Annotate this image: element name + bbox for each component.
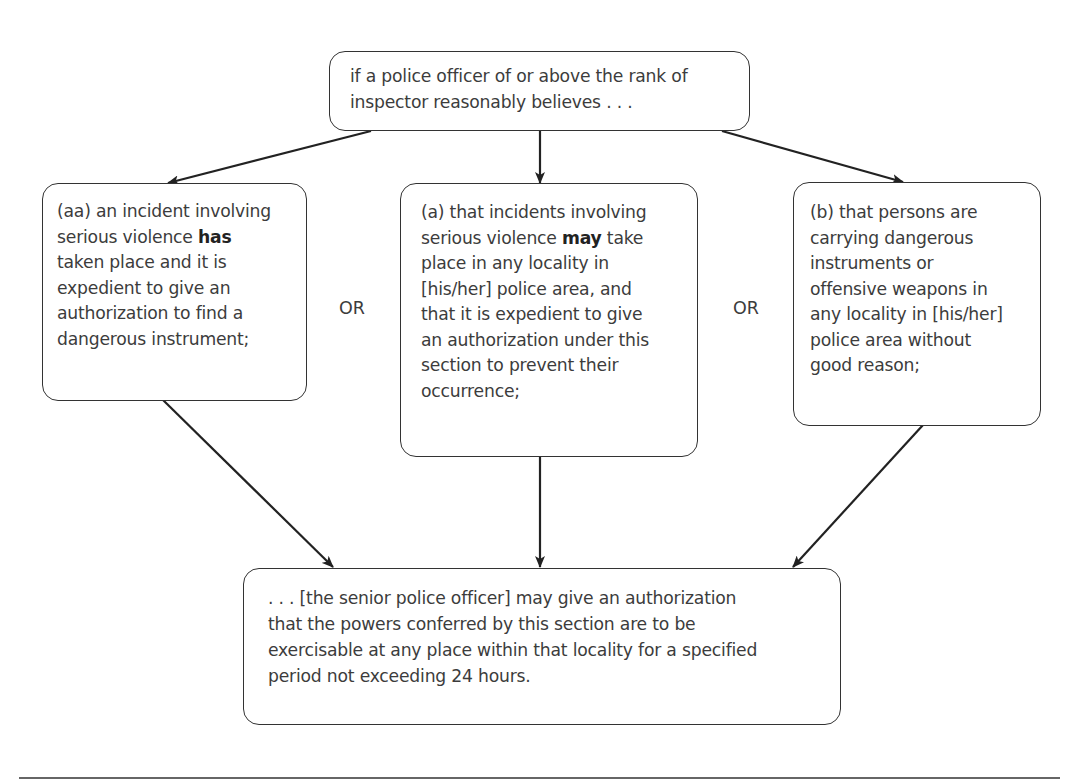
- left-option-text: (aa) an incident involving serious viole…: [57, 199, 271, 352]
- emphasis-may: may: [562, 228, 602, 248]
- arrow-left-to-bottom: [163, 400, 333, 567]
- arrow-right-to-bottom: [793, 425, 923, 567]
- or-label-left: OR: [339, 298, 365, 318]
- or-label-right: OR: [733, 298, 759, 318]
- right-line-2: carrying dangerous: [810, 226, 1003, 252]
- left-line-1: (aa) an incident involving: [57, 199, 271, 225]
- left-line-2: serious violence has: [57, 225, 271, 251]
- left-line-4: expedient to give an: [57, 276, 271, 302]
- middle-line-2-post: take: [602, 228, 644, 248]
- bottom-divider-rule: [19, 777, 1060, 779]
- right-line-4: offensive weapons in: [810, 277, 1003, 303]
- arrow-top-to-right: [722, 131, 903, 182]
- middle-line-2-pre: serious violence: [421, 228, 562, 248]
- middle-line-3: place in any locality in: [421, 251, 649, 277]
- right-line-5: any locality in [his/her]: [810, 302, 1003, 328]
- top-line-1: if a police officer of or above the rank…: [350, 64, 687, 90]
- bottom-result-text: . . . [the senior police officer] may gi…: [268, 585, 757, 689]
- right-line-1: (b) that persons are: [810, 200, 1003, 226]
- left-line-5: authorization to find a: [57, 301, 271, 327]
- left-line-3: taken place and it is: [57, 250, 271, 276]
- top-condition-text: if a police officer of or above the rank…: [350, 64, 687, 115]
- arrow-top-to-left: [168, 131, 371, 183]
- middle-line-8: occurrence;: [421, 379, 649, 405]
- emphasis-has: has: [198, 227, 231, 247]
- left-line-6: dangerous instrument;: [57, 327, 271, 353]
- right-line-7: good reason;: [810, 353, 1003, 379]
- right-line-6: police area without: [810, 328, 1003, 354]
- middle-option-text: (a) that incidents involving serious vio…: [421, 200, 649, 404]
- left-line-2-text: serious violence: [57, 227, 198, 247]
- middle-line-7: section to prevent their: [421, 353, 649, 379]
- top-line-2: inspector reasonably believes . . .: [350, 90, 687, 116]
- right-line-3: instruments or: [810, 251, 1003, 277]
- bottom-line-4: period not exceeding 24 hours.: [268, 663, 757, 689]
- bottom-line-2: that the powers conferred by this sectio…: [268, 611, 757, 637]
- middle-line-4: [his/her] police area, and: [421, 277, 649, 303]
- middle-line-5: that it is expedient to give: [421, 302, 649, 328]
- middle-line-2: serious violence may take: [421, 226, 649, 252]
- bottom-line-1: . . . [the senior police officer] may gi…: [268, 585, 757, 611]
- right-option-text: (b) that persons are carrying dangerous …: [810, 200, 1003, 379]
- middle-line-1: (a) that incidents involving: [421, 200, 649, 226]
- middle-line-6: an authorization under this: [421, 328, 649, 354]
- bottom-line-3: exercisable at any place within that loc…: [268, 637, 757, 663]
